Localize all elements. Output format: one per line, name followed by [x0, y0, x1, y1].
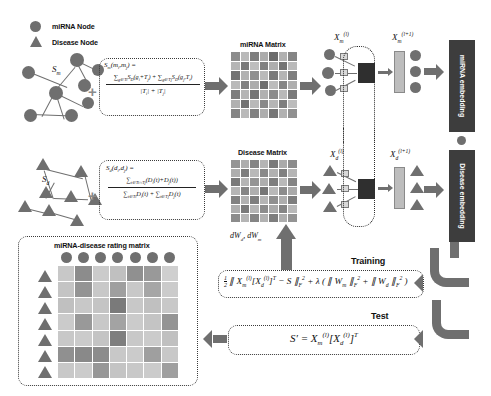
matrix-cell: [269, 81, 278, 90]
matrix-cell: [260, 52, 269, 61]
mirna-node-icon: [61, 252, 72, 263]
mirna-matrix-label: miRNA Matrix: [240, 40, 286, 49]
figure-canvas: miRNA Node Disease Node Sm + Sm(mi,mj) =: [0, 0, 491, 396]
matrix-cell: [93, 347, 109, 362]
embedding-connector-dot: [457, 136, 466, 145]
gradient-label: dWd, dWm: [230, 231, 261, 242]
matrix-cell: [260, 178, 269, 186]
matrix-cell: [288, 187, 297, 195]
matrix-cell: [241, 205, 250, 213]
matrix-cell: [75, 282, 91, 297]
matrix-cell: [241, 187, 250, 195]
graph-node: [18, 200, 32, 212]
matrix-cell: [288, 169, 297, 177]
matrix-cell: [250, 71, 259, 80]
matrix-cell: [241, 169, 250, 177]
matrix-cell: [231, 90, 240, 99]
matrix-cell: [288, 90, 297, 99]
mirna-similarity-formula: Sm(mi,mj) = ∑g∈TiSD(gi+Tj) + ∑g∈TjSD(gj,…: [104, 61, 202, 96]
training-label: Training: [351, 256, 385, 266]
matrix-cell: [58, 331, 74, 346]
matrix-cell: [288, 100, 297, 109]
matrix-cell: [144, 347, 160, 362]
matrix-cell: [288, 196, 297, 204]
matrix-cell: [75, 347, 91, 362]
disease-similarity-formula: Sd(di,dj) = ∑t∈Ti∩Tj(Di(t)+Dj(t)) ∑t∈TiD…: [106, 164, 198, 199]
matrix-cell: [127, 266, 143, 281]
matrix-cell: [241, 196, 250, 204]
training-loss-formula: 12 ∥ Xm(l)[Xd(l)]T − S ∥F2 + λ ( ∥ Wm ∥F…: [224, 275, 408, 288]
mirna-node-icon: [130, 252, 141, 263]
mirna-node-icon: [164, 252, 175, 263]
matrix-cell: [58, 298, 74, 313]
training-box-arrowhead: [414, 274, 423, 292]
embedding-down-stem: [450, 242, 459, 258]
matrix-cell: [279, 81, 288, 90]
matrix-cell: [279, 71, 288, 80]
layer-input-node: [322, 183, 336, 194]
disease-node-icon: [38, 286, 52, 298]
graph-node: [70, 53, 84, 67]
matrix-cell: [241, 90, 250, 99]
disease-node-icon: [38, 302, 52, 314]
matrix-cell: [162, 282, 178, 297]
matrix-cell: [231, 81, 240, 90]
matrix-cell: [288, 178, 297, 186]
matrix-cell: [288, 81, 297, 90]
matrix-cell: [260, 214, 269, 222]
matrix-cell: [241, 62, 250, 71]
matrix-cell: [250, 52, 259, 61]
matrix-cell: [241, 52, 250, 61]
matrix-cell: [250, 90, 259, 99]
matrix-cell: [127, 363, 143, 378]
graph-node: [65, 109, 78, 122]
matrix-cell: [269, 109, 278, 118]
matrix-cell: [250, 205, 259, 213]
disease-layer-input-label: Xd(l): [330, 148, 344, 161]
matrix-cell: [250, 81, 259, 90]
matrix-cell: [260, 62, 269, 71]
graph-node: [42, 204, 56, 216]
graph-node: [22, 66, 35, 79]
matrix-cell: [250, 187, 259, 195]
graph-node: [70, 214, 84, 226]
matrix-cell: [144, 282, 160, 297]
matrix-cell: [58, 314, 74, 329]
matrix-cell: [241, 160, 250, 168]
disease-node-icon: [38, 366, 52, 378]
disease-node-icon: [38, 318, 52, 330]
graph-node: [36, 158, 50, 170]
test-box-arrowhead: [414, 330, 423, 348]
matrix-cell: [279, 169, 288, 177]
matrix-cell: [279, 100, 288, 109]
mirna-node-icon: [112, 252, 123, 263]
matrix-cell: [269, 52, 278, 61]
layer-output-node: [410, 66, 421, 77]
layer-input-node: [325, 85, 336, 96]
matrix-cell: [110, 331, 126, 346]
graph-node: [24, 109, 37, 122]
matrix-cell: [250, 196, 259, 204]
matrix-cell: [269, 169, 278, 177]
matrix-cell: [162, 266, 178, 281]
graph-node: [39, 186, 53, 198]
matrix-cell: [110, 314, 126, 329]
matrix-cell: [231, 52, 240, 61]
graph-node: [49, 86, 63, 100]
matrix-cell: [231, 109, 240, 118]
matrix-cell: [250, 160, 259, 168]
matrix-cell: [269, 90, 278, 99]
matrix-cell: [288, 205, 297, 213]
matrix-cell: [279, 196, 288, 204]
matrix-cell: [162, 314, 178, 329]
matrix-cell: [288, 52, 297, 61]
layer-input-node: [323, 165, 337, 176]
legend-mirna-label: miRNA Node: [52, 22, 95, 31]
matrix-cell: [241, 81, 250, 90]
matrix-cell: [144, 331, 160, 346]
matrix-cell: [269, 160, 278, 168]
matrix-cell: [75, 298, 91, 313]
matrix-cell: [269, 214, 278, 222]
matrix-cell: [231, 187, 240, 195]
matrix-cell: [144, 298, 160, 313]
